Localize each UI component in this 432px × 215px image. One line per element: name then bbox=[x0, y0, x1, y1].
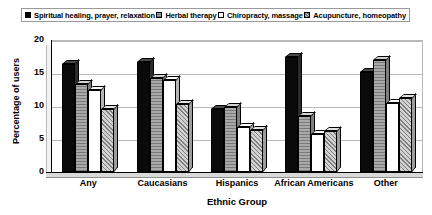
bar bbox=[237, 127, 250, 172]
bar-front-face bbox=[298, 116, 311, 172]
bar bbox=[75, 84, 88, 172]
bar bbox=[62, 64, 75, 172]
bar-front-face bbox=[176, 104, 189, 172]
y-tick-label: 0 bbox=[22, 167, 44, 176]
bar bbox=[88, 90, 101, 173]
chart-legend: Spiritual healing, prayer, relaxation He… bbox=[21, 8, 410, 22]
bar-group bbox=[349, 40, 423, 172]
y-tick-label: 15 bbox=[22, 68, 44, 77]
bar-front-face bbox=[211, 109, 224, 172]
bar-front-face bbox=[373, 60, 386, 172]
bar-front-face bbox=[163, 80, 176, 172]
y-tick-label: 10 bbox=[22, 101, 44, 110]
bar-group bbox=[200, 40, 274, 172]
bar-front-face bbox=[324, 131, 337, 172]
x-tick-label: Any bbox=[51, 178, 125, 188]
legend-item-spiritual: Spiritual healing, prayer, relaxation bbox=[25, 11, 155, 20]
legend-swatch-white-icon bbox=[218, 12, 224, 18]
bar-front-face bbox=[137, 62, 150, 172]
bar-side-face bbox=[337, 126, 341, 172]
bar bbox=[298, 116, 311, 172]
bar-front-face bbox=[399, 98, 412, 172]
bar-front-face bbox=[237, 127, 250, 172]
bar bbox=[373, 60, 386, 172]
bar-side-face bbox=[412, 93, 416, 172]
bar bbox=[176, 104, 189, 172]
bar-front-face bbox=[224, 107, 237, 172]
bar-group bbox=[51, 40, 125, 172]
legend-label-spiritual: Spiritual healing, prayer, relaxation bbox=[34, 11, 155, 20]
legend-label-acupuncture: Acupuncture, homeopathy bbox=[313, 11, 406, 20]
bar-front-face bbox=[250, 130, 263, 172]
bar-front-face bbox=[75, 84, 88, 172]
bar bbox=[211, 109, 224, 172]
bar bbox=[360, 72, 373, 172]
bar-front-face bbox=[360, 72, 373, 172]
bar bbox=[101, 109, 114, 172]
legend-swatch-hatch-icon bbox=[304, 12, 310, 18]
bar bbox=[285, 57, 298, 173]
x-tick-label: Other bbox=[349, 178, 423, 188]
bar bbox=[150, 78, 163, 172]
legend-label-chiropracty: Chiropracty, massage bbox=[227, 11, 303, 20]
legend-label-herbal: Herbal therapy bbox=[165, 11, 216, 20]
legend-item-herbal: Herbal therapy bbox=[156, 11, 216, 20]
bar bbox=[311, 134, 324, 172]
bar bbox=[224, 107, 237, 172]
x-tick-label: Hispanics bbox=[200, 178, 274, 188]
bar bbox=[324, 131, 337, 172]
bar-group bbox=[274, 40, 348, 172]
bar bbox=[137, 62, 150, 172]
bar-chart: Spiritual healing, prayer, relaxation He… bbox=[0, 0, 432, 215]
bar-side-face bbox=[263, 125, 267, 172]
legend-item-chiropracty: Chiropracty, massage bbox=[218, 11, 303, 20]
bar-side-face bbox=[189, 99, 193, 172]
bar-front-face bbox=[88, 90, 101, 173]
bar-front-face bbox=[386, 103, 399, 172]
bar-front-face bbox=[311, 134, 324, 172]
y-tick-label: 20 bbox=[22, 35, 44, 44]
bar-front-face bbox=[285, 57, 298, 173]
bar-side-face bbox=[114, 104, 118, 172]
x-tick-label: Caucasians bbox=[125, 178, 199, 188]
y-tick-label: 5 bbox=[22, 134, 44, 143]
x-tick-label: African Americans bbox=[274, 178, 348, 188]
bar-group bbox=[125, 40, 199, 172]
bars-layer bbox=[51, 40, 423, 172]
bar-front-face bbox=[62, 64, 75, 172]
bar bbox=[399, 98, 412, 172]
bar bbox=[386, 103, 399, 172]
legend-swatch-gray-icon bbox=[156, 12, 162, 18]
legend-item-acupuncture: Acupuncture, homeopathy bbox=[304, 11, 406, 20]
bar-front-face bbox=[101, 109, 114, 172]
bar bbox=[250, 130, 263, 172]
x-axis-title: Ethnic Group bbox=[51, 196, 423, 207]
y-axis-ticks: 05101520 bbox=[18, 0, 44, 215]
bar-front-face bbox=[150, 78, 163, 172]
bar bbox=[163, 80, 176, 172]
